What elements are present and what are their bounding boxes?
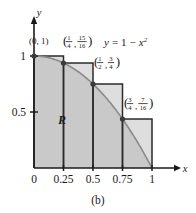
x-tick-label-3: 0.75 xyxy=(112,173,132,185)
equation-exponent: 2 xyxy=(144,36,148,44)
annotation-pt-0: (0, 1) xyxy=(29,36,49,46)
equation-one: 1 xyxy=(121,36,127,48)
figure-caption: (b) xyxy=(91,194,105,207)
annotation-x-numerator-pt-3: 3 xyxy=(128,96,132,103)
x-tick-label-4: 1 xyxy=(149,173,155,185)
point-dot-3 xyxy=(120,116,125,121)
annotation-comma-pt-3: , xyxy=(135,101,137,111)
annotation-x-denominator-pt-2: 2 xyxy=(98,63,101,70)
annotation-pt-1: (14,1516) xyxy=(63,33,92,49)
annotation-y-numerator-pt-2: 3 xyxy=(109,55,113,62)
figure-container: 00.250.50.751 0.51 x y (0, 1)(14,1516)(1… xyxy=(0,0,196,213)
x-tick-label-0: 0 xyxy=(31,173,37,185)
annotation-x-numerator-pt-1: 1 xyxy=(67,34,70,41)
annotation-x-denominator-pt-1: 4 xyxy=(67,42,71,49)
region-label-R: R xyxy=(57,114,66,126)
annotation-y-numerator-pt-3: 7 xyxy=(141,96,145,103)
equation-lhs: y xyxy=(103,36,109,48)
x-tick-label-2: 0.5 xyxy=(86,173,101,185)
equation-text: y=1−x2 xyxy=(103,36,148,48)
annotation-y-denominator-pt-1: 16 xyxy=(79,42,86,49)
x-axis-arrow-icon xyxy=(174,165,181,171)
equation-minus: − xyxy=(130,36,136,48)
point-dot-0 xyxy=(31,53,36,58)
y-tick-label-0: 0.5 xyxy=(12,106,27,118)
annotation-pt-2: (12,34) xyxy=(94,54,120,70)
y-axis-label: y xyxy=(36,7,42,18)
annotation-y-numerator-pt-1: 15 xyxy=(79,34,86,41)
x-axis-label: x xyxy=(182,163,188,174)
annotation-paren-right-pt-3: ) xyxy=(149,95,153,110)
annotation-y-denominator-pt-2: 4 xyxy=(109,63,113,70)
annotation-paren-right-pt-2: ) xyxy=(116,54,120,69)
x-tick-label-1: 0.25 xyxy=(53,173,73,185)
annotation-y-denominator-pt-3: 16 xyxy=(140,104,147,111)
equation-equals: = xyxy=(112,36,118,48)
annotation-comma-pt-1: , xyxy=(74,39,76,49)
annotation-text-pt-0: (0, 1) xyxy=(29,36,49,46)
y-tick-label-1: 1 xyxy=(20,50,26,62)
annotation-x-denominator-pt-3: 4 xyxy=(128,104,132,111)
riemann-sum-plot: 00.250.50.751 0.51 x y (0, 1)(14,1516)(1… xyxy=(0,0,196,213)
annotation-comma-pt-2: , xyxy=(105,60,107,70)
point-dot-1 xyxy=(61,60,66,65)
annotation-paren-right-pt-1: ) xyxy=(88,33,92,48)
x-axis-tick-labels: 00.250.50.751 xyxy=(31,173,155,185)
annotation-x-numerator-pt-2: 1 xyxy=(98,55,101,62)
y-axis-tick-labels: 0.51 xyxy=(12,50,27,118)
equation-label: y=1−x2 xyxy=(103,36,148,48)
annotation-pt-3: (34,716) xyxy=(124,95,153,111)
point-dot-2 xyxy=(90,81,95,86)
